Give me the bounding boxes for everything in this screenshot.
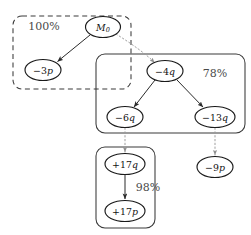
node-minus9p-label: −9p	[205, 161, 225, 172]
node-minus4q[interactable]: −4q	[147, 61, 183, 82]
cluster-label-middle: 78%	[203, 67, 227, 80]
node-minus9p[interactable]: −9p	[197, 157, 233, 178]
node-plus17q[interactable]: +17q	[105, 154, 145, 175]
node-minus13q-label: −13q	[202, 111, 228, 122]
node-minus6q[interactable]: −6q	[107, 107, 143, 128]
edge-minus4q-to-minus6q	[134, 80, 155, 107]
diagram-canvas: 100% 78% 98% M0 −3p	[0, 0, 251, 235]
node-minus13q[interactable]: −13q	[195, 107, 235, 128]
edge-m0-to-minus4q	[116, 34, 155, 63]
node-minus3p[interactable]: −3p	[25, 60, 61, 81]
node-minus6q-label: −6q	[115, 111, 135, 122]
node-plus17p-label: +17p	[112, 205, 138, 216]
node-plus17p[interactable]: +17p	[105, 201, 145, 222]
node-minus3p-label: −3p	[33, 64, 53, 75]
edge-m0-to-minus3p	[58, 35, 91, 62]
edge-minus4q-to-minus13q	[177, 80, 203, 107]
node-plus17q-label: +17q	[112, 158, 138, 169]
diagram-svg: 100% 78% 98% M0 −3p	[0, 0, 251, 235]
cluster-label-bottom: 98%	[136, 181, 160, 194]
node-m0[interactable]: M0	[86, 17, 121, 38]
node-minus4q-label: −4q	[155, 65, 175, 76]
cluster-label-root: 100%	[28, 20, 59, 33]
